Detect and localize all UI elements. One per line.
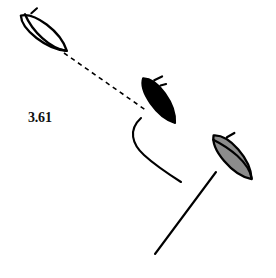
specimen-diagram xyxy=(0,0,276,278)
measurement-label: 3.61 xyxy=(28,111,52,125)
figure-canvas: 3.61 xyxy=(0,0,276,278)
